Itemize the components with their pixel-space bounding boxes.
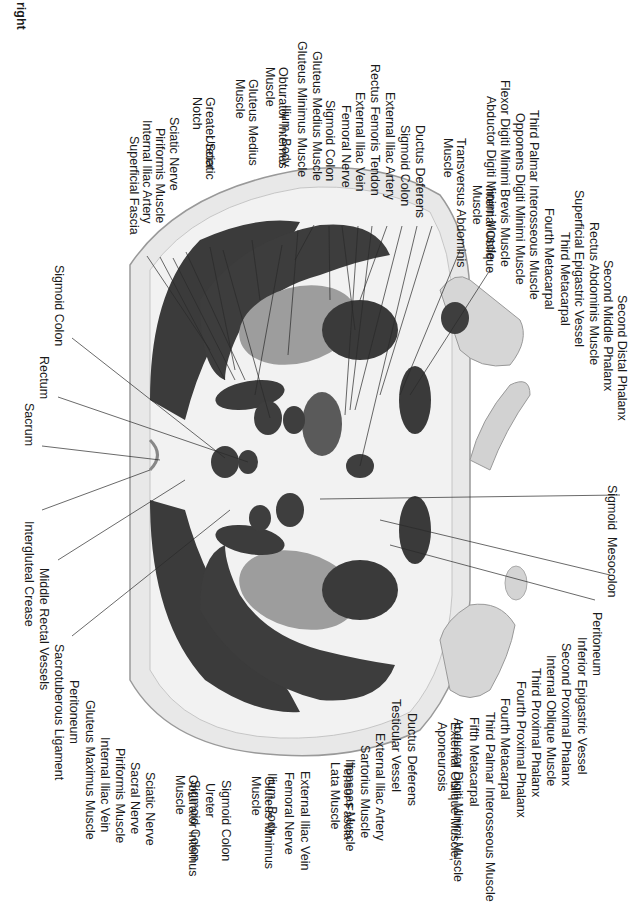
- anatomy-label: Ductus Deferens: [413, 125, 426, 218]
- anatomy-label: Ureter: [203, 135, 216, 170]
- rectus-abdominis-right: [399, 366, 431, 434]
- anatomy-label: Fourth Metacarpal: [498, 698, 511, 799]
- anatomy-label: Fifth Metacarpal: [467, 717, 480, 807]
- anatomy-label: Third Palmar Interosseous Muscle: [483, 712, 496, 902]
- anatomy-label: Sacrotuberous Ligament: [52, 644, 65, 780]
- anatomy-label: Middle Rectal Vessels: [37, 568, 50, 690]
- rectus-abdominis-left: [399, 496, 431, 564]
- anatomy-label: External Iliac Artery: [373, 733, 386, 841]
- anatomy-label: Rectus Abdominis Muscle: [587, 222, 600, 365]
- anatomy-label: Piriformis Muscle: [113, 748, 126, 843]
- anatomy-label: Third Metacarpal: [558, 232, 571, 326]
- anatomy-label: External Iliac Vein: [353, 92, 366, 191]
- anatomy-label: Second Distal Phalanx: [615, 295, 628, 421]
- anatomy-label: Sigmoid Colon: [188, 780, 201, 861]
- anatomy-label: Opponens Digiti Minimi Muscle: [513, 113, 526, 285]
- anatomy-label: Peritoneum: [590, 612, 603, 676]
- anatomy-label: Second Proximal Phalanx: [559, 643, 572, 786]
- anatomy-label: Abductor Digiti Minimi Muscle: [451, 718, 464, 882]
- anatomy-label: Sacrum: [22, 403, 35, 446]
- anatomy-label: Gluteus Medius Muscle: [233, 79, 259, 166]
- anatomy-label: Gluteus Minimus Muscle: [295, 41, 308, 177]
- anatomy-label: Iliopsoas Muscle: [343, 759, 356, 851]
- anatomy-label: Internal Iliac Artery: [140, 120, 153, 224]
- anatomy-label: Internal Iliac Vein: [98, 737, 111, 832]
- anatomy-label: Transversus Abdominis Muscle: [441, 138, 467, 267]
- anatomy-label: Internal Oblique Muscle: [544, 655, 557, 786]
- anatomy-label: Piriformis Muscle: [153, 128, 166, 223]
- anatomy-label: Third Proximal Phalanx: [529, 668, 542, 797]
- anatomy-label: Ilium, Body: [265, 773, 278, 835]
- anatomy-label: Sartorius Muscle: [358, 745, 371, 838]
- orientation-label: right: [14, 2, 27, 30]
- anatomy-label: Fourth Proximal Phalanx: [514, 681, 527, 818]
- bladder: [302, 392, 342, 456]
- anatomy-label: Ilium, Body: [279, 105, 292, 167]
- anatomy-label: Ureter: [203, 783, 216, 818]
- anatomy-label: Rectus Femoris Tendon: [368, 64, 381, 196]
- anatomy-label: Sigmoid Mesocolon: [605, 485, 618, 598]
- anatomy-label: External Iliac Artery: [383, 92, 396, 200]
- anatomy-label: Gluteus Medius Muscle: [310, 51, 323, 181]
- anatomy-label: Superficial Epigastric Vessel: [572, 190, 585, 347]
- anatomy-label: Sacral Nerve: [128, 762, 141, 834]
- anatomy-label: Sigmoid Colon: [219, 780, 232, 861]
- anatomy-label: Second Middle Phalanx: [601, 260, 614, 391]
- anatomy-label: Intergluteal Crease: [22, 521, 35, 627]
- anatomy-label: Sigmoid Colon: [52, 265, 65, 346]
- anatomy-label: Fourth Metacarpal: [542, 208, 555, 309]
- anatomy-label: Abductor Digiti Minimi Muscle: [484, 96, 497, 260]
- anatomy-label: Gluteus Maximus Muscle: [83, 700, 96, 840]
- anatomy-label: Superficial Fascia: [127, 136, 140, 235]
- anatomy-label: Peritoneum: [67, 680, 80, 744]
- anatomy-label: Testicular Vessel: [389, 699, 402, 792]
- anatomy-label: Sciatic Nerve: [143, 772, 156, 846]
- anatomy-label: Third Palmar Interosseous Muscle: [527, 110, 540, 300]
- finger-upper: [470, 382, 530, 470]
- anatomy-label: Ductus Deferens: [405, 713, 418, 806]
- anatomy-label: External Iliac Vein: [298, 771, 311, 870]
- anatomy-label: Inferior Epigastric Vessel: [575, 637, 588, 775]
- anatomy-label: Sigmoid Colon: [398, 125, 411, 206]
- anatomy-label: Flexor Digiti Minimi Brevis Muscle: [498, 80, 511, 267]
- anatomy-label: Sigmoid Colon: [323, 100, 336, 181]
- anatomy-label: Femoral Nerve: [339, 105, 352, 188]
- anatomy-label: Femoral Nerve: [282, 772, 295, 855]
- anatomy-label: Sciatic Nerve: [167, 117, 180, 191]
- finger-lower-small: [505, 566, 527, 600]
- anatomy-label: Rectum: [37, 356, 50, 399]
